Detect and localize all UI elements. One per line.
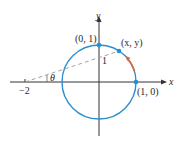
- angle-label: θ: [50, 72, 55, 83]
- x-axis-arrow-icon: [161, 80, 167, 85]
- y-axis-label: y: [95, 10, 101, 21]
- point-right: [134, 80, 139, 85]
- tick-label-minus-two: −2: [19, 85, 30, 96]
- radius-label: 1: [102, 55, 107, 66]
- x-axis-label: x: [168, 76, 174, 87]
- point-moving-label: (x, y): [121, 37, 143, 49]
- point-top: [97, 43, 102, 48]
- point-top-label: (0, 1): [75, 33, 97, 45]
- point-moving: [117, 49, 122, 54]
- point-right-label: (1, 0): [137, 86, 159, 98]
- unit-circle-diagram: y x (0, 1) (x, y) (1, 0) −2 1 θ: [0, 0, 180, 142]
